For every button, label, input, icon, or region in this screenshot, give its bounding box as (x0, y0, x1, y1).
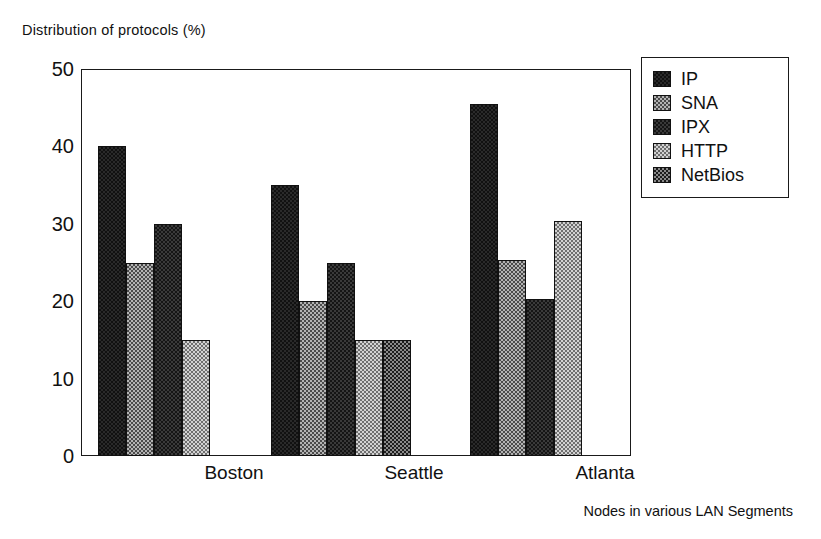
y-axis-tick-label: 30 (52, 212, 74, 235)
legend-item: NetBios (653, 163, 778, 187)
legend-item: IP (653, 67, 778, 91)
legend-item-label: SNA (681, 94, 718, 112)
bar (383, 340, 411, 456)
chart-title: Distribution of protocols (%) (22, 22, 206, 38)
bar (526, 299, 554, 456)
y-axis-labels: 01020304050 (0, 69, 74, 456)
chart-legend: IPSNAIPXHTTPNetBios (641, 57, 789, 198)
legend-swatch-icon (653, 119, 671, 135)
legend-item: SNA (653, 91, 778, 115)
bar (126, 263, 154, 457)
y-axis-tick-label: 40 (52, 135, 74, 158)
bar (98, 146, 126, 456)
bar (554, 221, 582, 456)
legend-swatch-icon (653, 71, 671, 87)
legend-item-label: NetBios (681, 166, 744, 184)
bar (498, 260, 526, 456)
x-axis-category-label: Boston (204, 462, 263, 484)
bar (182, 340, 210, 456)
legend-swatch-icon (653, 143, 671, 159)
x-axis-labels: BostonSeattleAtlanta (81, 462, 631, 492)
bar (154, 224, 182, 456)
bars-layer (81, 69, 631, 456)
legend-item-label: HTTP (681, 142, 728, 160)
bar (327, 263, 355, 457)
bar (470, 104, 498, 456)
bar (271, 185, 299, 456)
y-axis-tick-label: 20 (52, 290, 74, 313)
y-axis-tick-label: 10 (52, 367, 74, 390)
bar (355, 340, 383, 456)
legend-item: IPX (653, 115, 778, 139)
legend-swatch-icon (653, 167, 671, 183)
x-axis-category-label: Atlanta (575, 462, 634, 484)
legend-item-label: IPX (681, 118, 710, 136)
bar (299, 301, 327, 456)
y-axis-tick-label: 50 (52, 58, 74, 81)
y-axis-tick-label: 0 (63, 445, 74, 468)
legend-swatch-icon (653, 95, 671, 111)
x-axis-caption: Nodes in various LAN Segments (583, 503, 793, 519)
legend-item-label: IP (681, 70, 698, 88)
legend-item: HTTP (653, 139, 778, 163)
x-axis-category-label: Seattle (384, 462, 443, 484)
